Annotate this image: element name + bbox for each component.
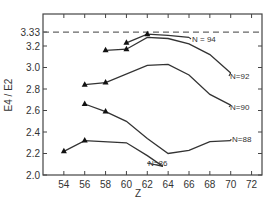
y-axis-ticks: 2.02.22.42.62.83.03.23.33 bbox=[21, 27, 262, 181]
x-tick-label: 54 bbox=[58, 179, 70, 190]
chart: 54565860626466687072 2.02.22.42.62.83.03… bbox=[0, 0, 277, 206]
triangle-marker-icon bbox=[82, 101, 88, 107]
y-tick-label: 3.0 bbox=[26, 62, 40, 73]
curve-label: N=88 bbox=[232, 135, 252, 144]
series-n-90: N=90 bbox=[82, 64, 250, 112]
x-tick-label: 72 bbox=[246, 179, 258, 190]
y-tick-label: 2.6 bbox=[26, 105, 40, 116]
series-n-88: N=88 bbox=[82, 101, 252, 154]
x-tick-label: 58 bbox=[100, 179, 112, 190]
curve-label: N=92 bbox=[230, 72, 250, 81]
x-axis-title: Z bbox=[135, 188, 141, 199]
y-tick-label: 2.0 bbox=[26, 170, 40, 181]
x-tick-label: 60 bbox=[121, 179, 133, 190]
x-tick-label: 56 bbox=[79, 179, 91, 190]
triangle-marker-icon bbox=[82, 137, 88, 143]
series-line bbox=[85, 64, 231, 105]
x-tick-label: 66 bbox=[183, 179, 195, 190]
y-tick-label: 3.33 bbox=[21, 27, 41, 38]
y-tick-label: 2.8 bbox=[26, 84, 40, 95]
curve-label: N=90 bbox=[230, 103, 250, 112]
curve-label: N=86 bbox=[148, 159, 168, 168]
y-axis-title: E4 / E2 bbox=[3, 78, 14, 111]
y-tick-label: 2.2 bbox=[26, 148, 40, 159]
x-tick-label: 64 bbox=[163, 179, 175, 190]
x-tick-label: 70 bbox=[225, 179, 237, 190]
series-group: N = 94N=92N=90N=88N=86 bbox=[61, 31, 252, 168]
label-connector bbox=[189, 37, 191, 39]
y-tick-label: 2.4 bbox=[26, 127, 40, 138]
y-tick-label: 3.2 bbox=[26, 41, 40, 52]
x-tick-label: 68 bbox=[204, 179, 216, 190]
curve-label: N = 94 bbox=[192, 35, 216, 44]
x-tick-label: 62 bbox=[142, 179, 154, 190]
